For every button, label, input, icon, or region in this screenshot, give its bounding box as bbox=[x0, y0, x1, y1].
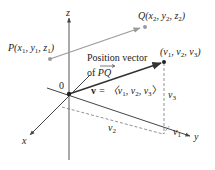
v2-label: v2 bbox=[108, 122, 116, 135]
point-q-label: Q(x2, y2, z2) bbox=[138, 10, 186, 23]
z-axis-label: z bbox=[65, 7, 70, 18]
vector-equation: v = 〈v1, v2, v3〉 bbox=[91, 85, 162, 98]
position-vector-caption-line2: of PQ bbox=[87, 67, 112, 78]
point-v-label: (v1, v2, v3) bbox=[160, 46, 201, 59]
origin-label: 0 bbox=[59, 80, 64, 91]
point-p-label: P(x1, y1, z1) bbox=[7, 42, 55, 55]
point-p bbox=[48, 57, 52, 61]
v1-label: v1 bbox=[173, 126, 181, 139]
position-vector-caption-line1: Position vector bbox=[87, 52, 148, 63]
v3-label: v3 bbox=[168, 89, 176, 102]
origin-point bbox=[67, 92, 71, 96]
point-v bbox=[162, 60, 166, 64]
position-vector-diagram: z y x 0 P(x1, y1, z1) Q(x2, y2, z2) (v1,… bbox=[0, 0, 215, 170]
point-q bbox=[143, 25, 147, 29]
y-axis-label: y bbox=[193, 131, 199, 142]
x-axis-label: x bbox=[21, 135, 27, 146]
